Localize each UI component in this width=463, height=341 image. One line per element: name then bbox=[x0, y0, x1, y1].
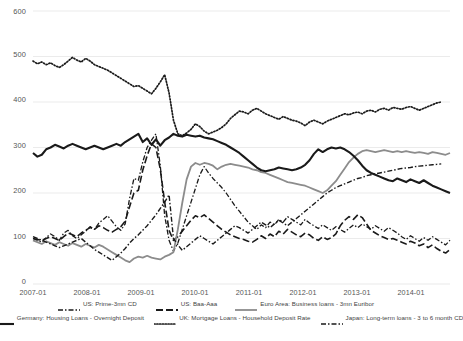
y-tick-400: 400 bbox=[2, 95, 26, 104]
series-line-3 bbox=[33, 134, 450, 193]
legend-swatch-solid-gray-icon bbox=[235, 300, 257, 308]
legend-swatch-dashed-icon bbox=[156, 300, 178, 308]
x-tick-2007: 2007-01 bbox=[9, 288, 57, 297]
legend-label-japan: Japan: Long-term loans - 3 to 6 month CD bbox=[346, 314, 463, 322]
y-tick-600: 600 bbox=[2, 7, 26, 16]
legend-label-germany: Germany: Housing Loans - Overnight Depos… bbox=[17, 314, 144, 322]
chart-legend: US: Prime-3mn CD US: Baa-Aaa Euro Area: … bbox=[0, 298, 455, 341]
legend-item-germany[interactable]: Germany: Housing Loans - Overnight Depos… bbox=[0, 314, 144, 322]
legend-swatch-dash-dot-japan-icon bbox=[321, 314, 343, 322]
y-tick-500: 500 bbox=[2, 50, 26, 59]
legend-row-1: US: Prime-3mn CD US: Baa-Aaa Euro Area: … bbox=[0, 300, 455, 308]
legend-swatch-dotted-icon bbox=[154, 314, 176, 322]
legend-item-euro-area[interactable]: Euro Area: Business loans - 3mn Euribor bbox=[235, 300, 374, 308]
legend-item-uk[interactable]: UK: Mortgage Loans - Household Deposit R… bbox=[154, 314, 310, 322]
series-line-1 bbox=[33, 144, 450, 253]
legend-swatch-solid-black-icon bbox=[0, 314, 14, 322]
series-lines bbox=[33, 57, 450, 262]
legend-item-us-baa-aaa[interactable]: US: Baa-Aaa bbox=[156, 300, 218, 308]
x-tick-2011: 2011-01 bbox=[225, 288, 273, 297]
x-tick-2010: 2010-01 bbox=[171, 288, 219, 297]
legend-label-us-prime: US: Prime-3mn CD bbox=[83, 300, 137, 308]
plot-area: 600 500 400 300 200 100 0 2007-01 2008-0… bbox=[0, 0, 455, 296]
legend-item-japan[interactable]: Japan: Long-term loans - 3 to 6 month CD bbox=[321, 314, 463, 322]
legend-swatch-dash-dot-icon bbox=[58, 300, 80, 308]
y-tick-300: 300 bbox=[2, 141, 26, 150]
legend-item-us-prime[interactable]: US: Prime-3mn CD bbox=[58, 300, 137, 308]
legend-row-2: Germany: Housing Loans - Overnight Depos… bbox=[0, 314, 455, 322]
series-line-4 bbox=[33, 57, 441, 135]
gridlines bbox=[33, 11, 450, 284]
legend-label-uk: UK: Mortgage Loans - Household Deposit R… bbox=[179, 314, 310, 322]
chart-svg bbox=[0, 0, 455, 296]
series-line-5 bbox=[33, 164, 441, 260]
y-tick-0: 0 bbox=[2, 277, 26, 286]
x-tick-2008: 2008-01 bbox=[63, 288, 111, 297]
y-tick-200: 200 bbox=[2, 186, 26, 195]
x-tick-2014: 2014-01 bbox=[387, 288, 435, 297]
x-tick-2009: 2009-01 bbox=[117, 288, 165, 297]
y-tick-100: 100 bbox=[2, 232, 26, 241]
legend-label-euro-area: Euro Area: Business loans - 3mn Euribor bbox=[260, 300, 374, 308]
x-tick-2013: 2013-01 bbox=[333, 288, 381, 297]
x-tick-2012: 2012-01 bbox=[279, 288, 327, 297]
legend-label-us-baa-aaa: US: Baa-Aaa bbox=[181, 300, 218, 308]
series-line-2 bbox=[33, 150, 450, 262]
